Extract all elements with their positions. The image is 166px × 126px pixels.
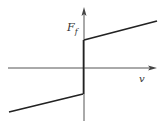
x-axis-label: v (139, 73, 145, 84)
y-axis-label-subscript: f (74, 27, 80, 36)
friction-velocity-diagram: Ff v (0, 0, 166, 126)
y-axis-label: Ff (66, 21, 80, 36)
lower-branch-line (9, 94, 83, 112)
upper-branch-line (84, 21, 157, 40)
